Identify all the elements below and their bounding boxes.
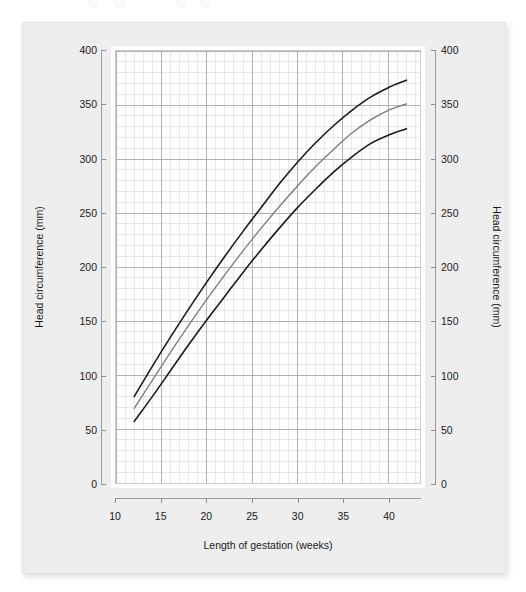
y-tick-label-right: 300 <box>441 153 485 164</box>
x-tick-mark <box>298 498 299 503</box>
y-tick-label-left: 150 <box>53 316 97 327</box>
x-tick-mark <box>252 498 253 503</box>
x-tick-mark <box>389 498 390 503</box>
x-tick-mark <box>206 498 207 503</box>
x-tick-mark <box>161 498 162 503</box>
y-tick-mark-right <box>431 376 436 377</box>
y-tick-mark-right <box>431 267 436 268</box>
y-tick-mark-left <box>101 376 106 377</box>
x-tick-mark <box>343 498 344 503</box>
y-tick-mark-left <box>101 321 106 322</box>
y-tick-mark-right <box>431 50 436 51</box>
x-axis-title: Length of gestation (weeks) <box>204 539 333 551</box>
y-tick-mark-right <box>431 159 436 160</box>
x-tick-label: 20 <box>200 511 212 522</box>
y-tick-mark-right <box>431 104 436 105</box>
x-tick-label: 25 <box>246 511 258 522</box>
plot-area <box>115 50 421 484</box>
centile-curves <box>116 51 420 483</box>
y-tick-label-right: 150 <box>441 316 485 327</box>
y-tick-mark-left <box>101 430 106 431</box>
x-tick-label: 35 <box>338 511 350 522</box>
y-tick-label-right: 400 <box>441 45 485 56</box>
y-axis-title-left: Head circumference (mm) <box>33 206 45 327</box>
y-tick-mark-left <box>101 159 106 160</box>
y-axis-title-right: Head circumference (mm) <box>491 206 503 327</box>
x-tick-label: 40 <box>383 511 395 522</box>
y-tick-mark-right <box>431 430 436 431</box>
x-tick-label: 15 <box>155 511 167 522</box>
chart-card: 0050501001001501502002002502503003003503… <box>22 22 506 574</box>
y-tick-mark-right <box>431 213 436 214</box>
y-tick-label-right: 100 <box>441 370 485 381</box>
y-tick-mark-right <box>431 484 436 485</box>
y-tick-mark-left <box>101 50 106 51</box>
x-tick-label: 30 <box>292 511 304 522</box>
y-tick-mark-right <box>431 321 436 322</box>
y-tick-mark-left <box>101 267 106 268</box>
y-tick-label-left: 0 <box>53 479 97 490</box>
y-tick-label-left: 300 <box>53 153 97 164</box>
y-tick-mark-left <box>101 213 106 214</box>
top-edge-artifact <box>0 0 526 8</box>
y-tick-label-right: 0 <box>441 479 485 490</box>
y-tick-mark-left <box>101 104 106 105</box>
y-tick-label-right: 200 <box>441 262 485 273</box>
y-tick-label-left: 100 <box>53 370 97 381</box>
y-tick-label-left: 400 <box>53 45 97 56</box>
y-tick-label-left: 250 <box>53 208 97 219</box>
y-tick-mark-left <box>101 484 106 485</box>
figure-root: 0050501001001501502002002502503003003503… <box>0 0 526 592</box>
y-tick-label-right: 350 <box>441 99 485 110</box>
y-tick-label-right: 50 <box>441 425 485 436</box>
y-tick-label-right: 250 <box>441 208 485 219</box>
y-tick-label-left: 200 <box>53 262 97 273</box>
y-tick-label-left: 50 <box>53 425 97 436</box>
x-tick-label: 10 <box>109 511 121 522</box>
x-tick-mark <box>115 498 116 503</box>
y-tick-label-left: 350 <box>53 99 97 110</box>
